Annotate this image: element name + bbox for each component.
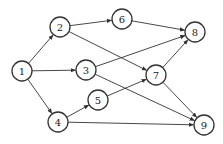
node-7: 7 (146, 65, 166, 85)
edge-1-to-2 (29, 35, 54, 64)
edge-5-to-7 (107, 79, 146, 96)
edges-layer (28, 20, 197, 125)
edge-6-to-8 (132, 21, 185, 30)
nodes-layer: 123456789 (12, 9, 214, 135)
node-label: 8 (192, 27, 198, 38)
node-label: 9 (201, 120, 207, 131)
node-4: 4 (48, 112, 68, 132)
edge-7-to-9 (163, 82, 197, 117)
node-3: 3 (76, 60, 96, 80)
node-label: 6 (119, 14, 125, 25)
node-2: 2 (50, 17, 70, 37)
directed-graph-diagram: 123456789 (0, 0, 223, 144)
edge-7-to-8 (163, 40, 188, 68)
node-label: 4 (55, 117, 61, 128)
edge-3-to-9 (95, 74, 194, 120)
node-label: 2 (57, 22, 63, 33)
edge-4-to-5 (67, 105, 89, 117)
node-6: 6 (112, 9, 132, 29)
node-label: 7 (153, 70, 159, 81)
node-5: 5 (88, 90, 108, 110)
edge-1-to-3 (32, 70, 76, 71)
node-1: 1 (12, 61, 32, 81)
node-9: 9 (194, 115, 214, 135)
graph-canvas: 123456789 (0, 0, 223, 144)
node-8: 8 (185, 22, 205, 42)
node-label: 3 (83, 65, 89, 76)
node-label: 5 (95, 95, 101, 106)
edge-4-to-9 (68, 122, 194, 125)
edge-2-to-6 (70, 20, 112, 25)
edge-1-to-4 (28, 79, 52, 113)
node-label: 1 (19, 66, 25, 77)
